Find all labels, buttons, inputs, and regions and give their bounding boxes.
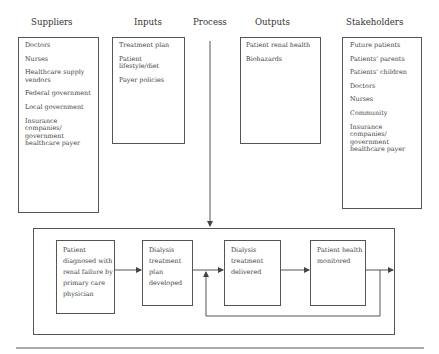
- step-plan-developed: Dialysis treatment plan developed: [142, 240, 193, 306]
- step-label: Patient diagnosed with renal failure by …: [63, 246, 113, 298]
- step-label: Dialysis treatment delivered: [231, 246, 263, 276]
- step-health-monitored: Patient health monitored: [310, 240, 366, 306]
- step-treatment-delivered: Dialysis treatment delivered: [224, 240, 281, 306]
- caption-separator: [16, 347, 424, 349]
- step-label: Patient health monitored: [317, 246, 362, 265]
- step-label: Dialysis treatment plan developed: [149, 246, 182, 287]
- step-diagnosis: Patient diagnosed with renal failure by …: [56, 240, 115, 314]
